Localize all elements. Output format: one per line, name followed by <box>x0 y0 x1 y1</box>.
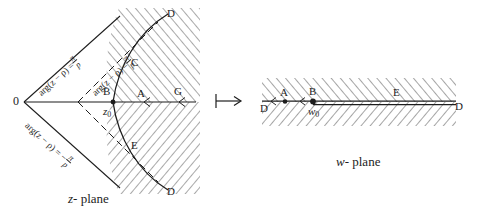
z-axis-label-a: A <box>137 88 145 99</box>
w-label-a: A <box>280 87 288 98</box>
z-vertex-dot <box>111 100 116 105</box>
w-label-d-right: D <box>455 101 463 112</box>
w-point-a-dot <box>283 99 288 104</box>
w-plane-group <box>258 74 460 130</box>
w-plane-caption-var: w <box>336 154 345 169</box>
z-plane-caption: z- plane <box>68 192 109 205</box>
z-curve-label-d-bottom: D <box>167 186 175 197</box>
w-plane-caption-rest: - plane <box>345 154 381 169</box>
z-curve-label-e: E <box>131 140 138 151</box>
z-plane-caption-rest: - plane <box>73 191 109 206</box>
figure-canvas: 0 B z0 A G D D C E arg(z − ρ) =πp arg(z … <box>0 0 482 218</box>
z-axis-label-g: G <box>174 86 182 97</box>
w-label-b: B <box>309 86 316 97</box>
mapping-arrow-group <box>216 94 241 108</box>
diagram-svg <box>0 0 482 218</box>
w-label-w0: w0 <box>308 106 319 119</box>
w-point-b-dot <box>310 99 316 105</box>
z-plane-group <box>24 4 210 200</box>
z-curve-label-d-top: D <box>167 8 175 19</box>
w-point-sub: 0 <box>315 110 319 119</box>
w-label-e: E <box>393 87 400 98</box>
w-label-d-left: D <box>260 103 268 114</box>
z-vertex-sub: 0 <box>107 110 111 119</box>
w-plane-caption: w- plane <box>336 155 380 168</box>
z-origin-label: 0 <box>13 95 19 107</box>
z-vertex-label-z0: z0 <box>103 106 111 119</box>
w-plane-hatching-lower <box>258 98 460 130</box>
